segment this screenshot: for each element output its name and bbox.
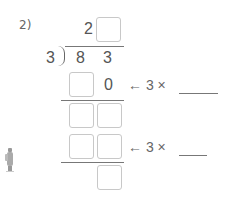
final-remainder-answer-box[interactable] [97,165,122,190]
divisor: 3 [46,50,55,66]
problem-number-label: 2) [19,18,31,32]
step2-multiplier-blank[interactable] [179,155,207,156]
dividend-digit-ones: 3 [103,50,112,66]
step1-tens-answer-box[interactable] [69,72,94,97]
dividend-digit-tens: 8 [76,50,85,66]
division-bracket [58,46,65,66]
subtraction-line-2 [61,162,124,163]
subtraction-line-1 [61,100,124,101]
step2-hint: ← 3 × [128,139,166,155]
division-bar [65,46,124,47]
step1-hint: ← 3 × [128,77,166,93]
remainder1-ones-answer-box[interactable] [97,103,122,128]
step1-ones-digit: 0 [104,77,113,93]
remainder1-tens-answer-box[interactable] [69,103,94,128]
quotient-ones-answer-box[interactable] [96,17,121,42]
quotient-digit-tens: 2 [84,21,93,37]
step2-tens-answer-box[interactable] [69,134,94,159]
figure-icon [5,148,15,172]
step1-multiplier-blank[interactable] [179,93,218,94]
step2-ones-answer-box[interactable] [97,134,122,159]
